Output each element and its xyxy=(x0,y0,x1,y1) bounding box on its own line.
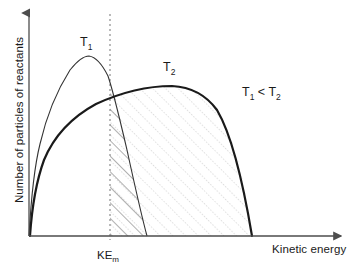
maxwell-boltzmann-distribution-chart xyxy=(0,0,362,278)
comparison-operator: < T xyxy=(254,85,276,99)
comparison-left-text: T xyxy=(242,85,250,99)
t2-label-text: T xyxy=(163,60,171,74)
t2-label-subscript: 2 xyxy=(171,67,176,77)
kem-threshold-label: KEm xyxy=(97,249,119,264)
comparison-right-subscript: 2 xyxy=(276,92,281,102)
t1-curve-label: T1 xyxy=(80,35,92,52)
kem-label-text: KE xyxy=(97,249,112,261)
temperature-comparison-annotation: T1 < T2 xyxy=(242,85,281,102)
kem-label-subscript: m xyxy=(112,255,119,264)
t1-label-subscript: 1 xyxy=(88,42,93,52)
t1-label-text: T xyxy=(80,35,88,49)
y-axis-label: Number of particles of reactants xyxy=(13,35,25,205)
t2-curve-label: T2 xyxy=(163,60,175,77)
x-axis-label: Kinetic energy xyxy=(272,243,346,255)
